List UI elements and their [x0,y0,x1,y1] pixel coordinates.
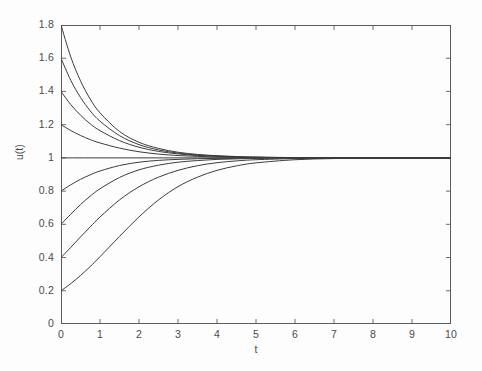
solution-curve [61,125,451,158]
axis-tick-marks [61,25,451,324]
figure-container: 012345678910 00.20.40.60.811.21.41.61.8 … [0,0,482,371]
x-tick-label: 5 [239,328,273,340]
y-tick-label: 1.2 [10,118,54,130]
x-tick-label: 0 [44,328,78,340]
solution-curve [61,58,451,158]
y-tick-label: 0 [10,317,54,329]
x-tick-label: 9 [395,328,429,340]
y-tick-label: 0.8 [10,184,54,196]
solution-curve [61,25,451,158]
curve-canvas [61,25,451,324]
y-tick-label: 0.4 [10,251,54,263]
x-tick-label: 6 [278,328,312,340]
y-tick-label: 0.6 [10,217,54,229]
x-tick-label: 2 [122,328,156,340]
x-tick-label: 1 [83,328,117,340]
y-tick-label: 1.8 [10,18,54,30]
x-tick-label: 8 [356,328,390,340]
x-tick-label: 4 [200,328,234,340]
solution-curve [61,158,451,224]
x-tick-label: 7 [317,328,351,340]
y-axis-label: u(t) [13,144,25,160]
plot-area [61,25,451,324]
x-tick-label: 10 [434,328,468,340]
solution-curve [61,158,451,258]
y-tick-label: 0.2 [10,284,54,296]
y-tick-label: 1.6 [10,51,54,63]
y-tick-label: 1.4 [10,84,54,96]
x-tick-label: 3 [161,328,195,340]
x-axis-label: t [61,343,451,355]
